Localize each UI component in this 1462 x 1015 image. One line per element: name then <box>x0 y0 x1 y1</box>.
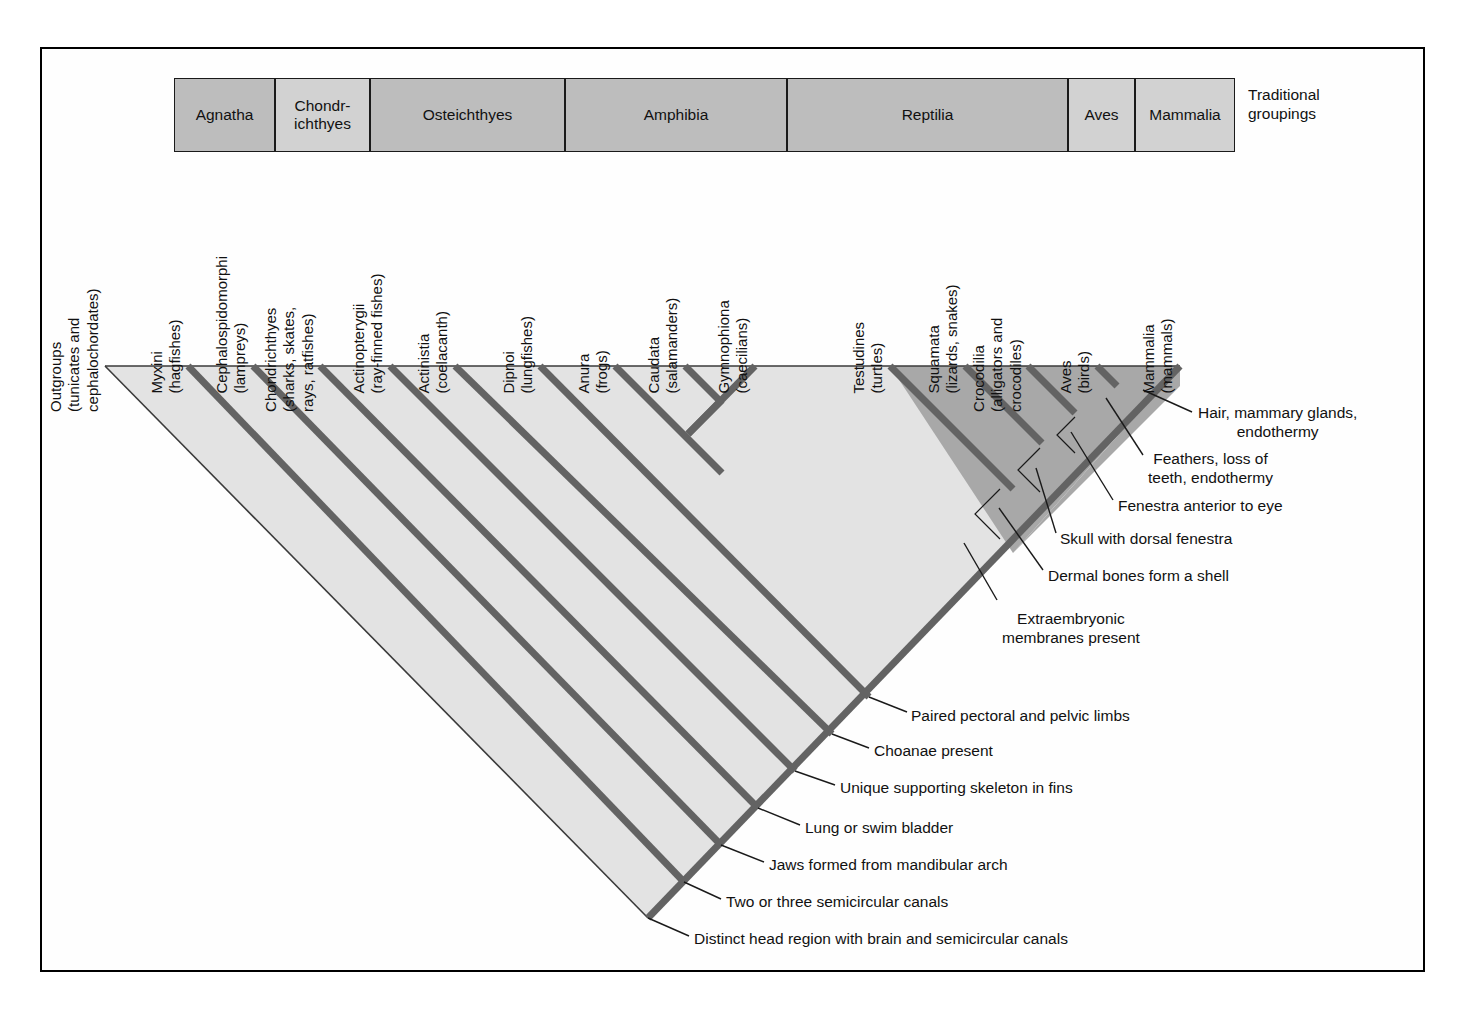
character-label-feathers: Feathers, loss ofteeth, endothermy <box>1148 450 1273 488</box>
taxon-label-cephalospidomorphi: Cephalospidomorphi(lampreys) <box>213 256 250 394</box>
taxon-common-name: (mammals) <box>1159 319 1177 394</box>
leader-jaws <box>721 845 764 862</box>
character-label-line: Distinct head region with brain and semi… <box>694 930 1068 949</box>
character-label-line: teeth, endothermy <box>1148 469 1273 488</box>
grouping-label: Amphibia <box>644 106 709 124</box>
character-label-hair: Hair, mammary glands,endothermy <box>1198 404 1357 442</box>
taxon-label-testudines: Testudines(turtles) <box>850 322 887 394</box>
taxon-label-gymnophiona: Gymnophiona(caecilians) <box>715 300 752 393</box>
taxon-name: Outgroups <box>47 288 65 411</box>
taxon-name: Actinistia <box>415 311 433 394</box>
taxon-common-name: crocodiles) <box>1007 318 1025 412</box>
taxon-common-name: (sharks, skates, <box>280 307 298 412</box>
leader-choanae <box>832 734 869 748</box>
taxon-label-dipnoi: Dipnoi(lungfishes) <box>500 316 537 394</box>
taxon-common-name: (hagfishes) <box>167 319 185 393</box>
traditional-caption-line2: groupings <box>1248 104 1320 123</box>
taxon-name: Gymnophiona <box>715 300 733 393</box>
character-label-dermal: Dermal bones form a shell <box>1048 567 1229 586</box>
grouping-box-chondrichthyes: Chondr-ichthyes <box>275 78 370 152</box>
taxon-name: Myxini <box>148 319 166 393</box>
grouping-label: Reptilia <box>902 106 954 124</box>
taxon-common-name: (lungfishes) <box>519 316 537 394</box>
grouping-box-mammalia: Mammalia <box>1135 78 1235 152</box>
character-label-line: Dermal bones form a shell <box>1048 567 1229 586</box>
leader-distinct-head <box>648 918 689 936</box>
taxon-label-actinistia: Actinistia(coelacanth) <box>415 311 452 394</box>
character-label-two: Two or three semicircular canals <box>726 893 948 912</box>
taxon-common-name: cephalochordates) <box>84 288 102 411</box>
grouping-box-reptilia: Reptilia <box>787 78 1068 152</box>
grouping-label: Mammalia <box>1149 106 1220 124</box>
taxon-name: Testudines <box>850 322 868 394</box>
character-label-line: Extraembryonic <box>1002 610 1140 629</box>
taxon-common-name: (turtles) <box>869 322 887 394</box>
character-label-fenestra: Fenestra anterior to eye <box>1118 497 1283 516</box>
taxon-common-name: (alligators and <box>988 318 1006 412</box>
taxon-label-crocodilia: Crocodilia(alligators andcrocodiles) <box>970 318 1025 412</box>
character-label-line: membranes present <box>1002 629 1140 648</box>
character-label-paired: Paired pectoral and pelvic limbs <box>911 707 1130 726</box>
character-label-line: Unique supporting skeleton in fins <box>840 779 1073 798</box>
character-label-line: Paired pectoral and pelvic limbs <box>911 707 1130 726</box>
character-label-distinct: Distinct head region with brain and semi… <box>694 930 1068 949</box>
taxon-common-name: (lampreys) <box>232 256 250 394</box>
traditional-groupings-caption: Traditional groupings <box>1248 85 1320 124</box>
taxon-common-name: (coelacanth) <box>434 311 452 394</box>
taxon-common-name: rays, ratfishes) <box>299 307 317 412</box>
taxon-name: Caudata <box>645 298 663 394</box>
taxon-common-name: (ray-finned fishes) <box>369 274 387 394</box>
grouping-box-amphibia: Amphibia <box>565 78 787 152</box>
grouping-box-aves: Aves <box>1068 78 1135 152</box>
taxon-label-squamata: Squamata(lizards, snakes) <box>925 284 962 393</box>
taxon-name: Aves <box>1057 351 1075 394</box>
taxon-common-name: (frogs) <box>594 350 612 393</box>
taxon-label-caudata: Caudata(salamanders) <box>645 298 682 394</box>
character-label-choanae: Choanae present <box>874 742 993 761</box>
character-label-line: Choanae present <box>874 742 993 761</box>
character-label-line: Hair, mammary glands, <box>1198 404 1357 423</box>
taxon-label-myxini: Myxini(hagfishes) <box>148 319 185 393</box>
taxon-label-mammalia: Mammalia(mammals) <box>1140 319 1177 394</box>
taxon-name: Crocodilia <box>970 318 988 412</box>
traditional-caption-line1: Traditional <box>1248 85 1320 104</box>
character-label-line: Fenestra anterior to eye <box>1118 497 1283 516</box>
character-label-line: Lung or swim bladder <box>805 819 953 838</box>
taxon-name: Chondrichthyes <box>262 307 280 412</box>
taxon-name: Dipnoi <box>500 316 518 394</box>
taxon-label-aves: Aves(birds) <box>1057 351 1094 394</box>
taxon-name: Anura <box>575 350 593 393</box>
taxon-common-name: (lizards, snakes) <box>944 284 962 393</box>
taxon-label-outgroups: Outgroups(tunicates andcephalochordates) <box>47 288 102 411</box>
character-label-skull: Skull with dorsal fenestra <box>1060 530 1232 549</box>
grouping-label: Aves <box>1084 106 1118 124</box>
taxon-name: Mammalia <box>1140 319 1158 394</box>
taxon-label-actinopterygii: Actinopterygii(ray-finned fishes) <box>350 274 387 394</box>
character-label-unique: Unique supporting skeleton in fins <box>840 779 1073 798</box>
taxon-common-name: (birds) <box>1076 351 1094 394</box>
leader-lung <box>758 808 800 825</box>
taxon-label-anura: Anura(frogs) <box>575 350 612 393</box>
character-label-extraembryonic: Extraembryonicmembranes present <box>1002 610 1140 648</box>
grouping-box-osteichthyes: Osteichthyes <box>370 78 565 152</box>
grouping-label: Osteichthyes <box>423 106 513 124</box>
leader-semicircular <box>684 882 721 899</box>
character-label-jaws: Jaws formed from mandibular arch <box>769 856 1008 875</box>
character-label-line: Feathers, loss of <box>1148 450 1273 469</box>
taxon-name: Cephalospidomorphi <box>213 256 231 394</box>
character-label-line: endothermy <box>1198 423 1357 442</box>
grouping-box-agnatha: Agnatha <box>174 78 275 152</box>
taxon-common-name: (tunicates and <box>65 288 83 411</box>
character-label-line: Skull with dorsal fenestra <box>1060 530 1232 549</box>
character-label-line: Jaws formed from mandibular arch <box>769 856 1008 875</box>
taxon-name: Squamata <box>925 284 943 393</box>
grouping-label: Agnatha <box>196 106 254 124</box>
character-label-line: Two or three semicircular canals <box>726 893 948 912</box>
taxon-common-name: (caecilians) <box>734 300 752 393</box>
taxon-label-chondrichthyes: Chondrichthyes(sharks, skates,rays, ratf… <box>262 307 317 412</box>
character-label-lung: Lung or swim bladder <box>805 819 953 838</box>
taxon-common-name: (salamanders) <box>664 298 682 394</box>
taxon-name: Actinopterygii <box>350 274 368 394</box>
leader-paired-limbs <box>869 697 907 712</box>
grouping-label: Chondr-ichthyes <box>294 97 351 133</box>
